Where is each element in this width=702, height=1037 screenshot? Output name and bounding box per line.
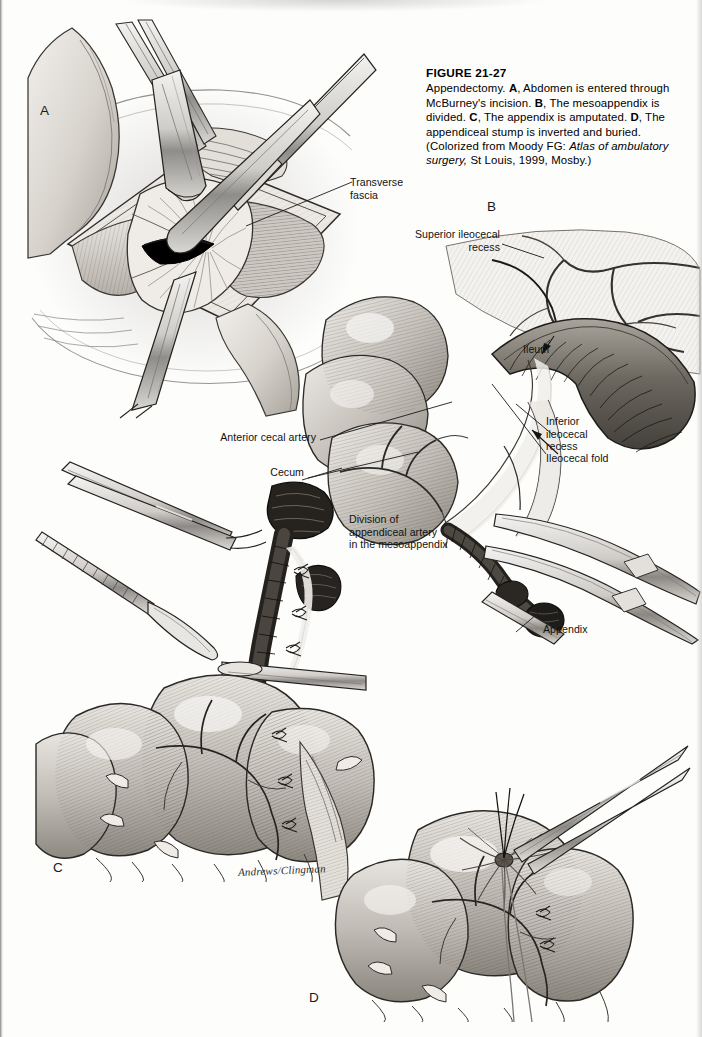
panel-letter-a: A — [40, 103, 49, 118]
panel-d-illustration — [300, 742, 690, 1022]
caption-part-comma-a: , — [517, 82, 520, 94]
panel-letter-d: D — [309, 990, 319, 1005]
label-cecum: Cecum — [214, 466, 304, 479]
cecum-mass-d — [335, 811, 633, 1006]
label-division-of-appendiceal-artery: Division of appendiceal artery in the me… — [349, 513, 448, 551]
caption-part-letter-b: B — [535, 97, 543, 109]
caption-part-letter-a: A — [509, 82, 517, 94]
panel-letter-c: C — [53, 860, 63, 875]
label-inferior-ileocecal-recess: Inferior ileocecal recess — [546, 415, 588, 453]
caption-source-prefix: (Colorized from Moody FG: — [426, 140, 566, 152]
label-appendix: Appendix — [543, 623, 588, 636]
caption-part-comma-b: , — [543, 97, 546, 109]
caption-part-letter-d: D — [630, 111, 638, 123]
caption-part-comma-c: , — [478, 111, 481, 123]
caption-part-comma-d: , — [639, 111, 642, 123]
caption-part-letter-c: C — [469, 111, 477, 123]
scalpel-c — [36, 532, 218, 660]
caption-source-suffix: St Louis, 1999, Mosby.) — [470, 154, 591, 166]
label-superior-ileocecal-recess: Superior ileocecal recess — [378, 228, 500, 253]
figure-page: Transverse fascia Superior ileocecal rec… — [0, 0, 702, 1037]
page-scan-smudge — [120, 0, 550, 12]
panel-letter-b: B — [487, 199, 496, 214]
label-anterior-cecal-artery: Anterior cecal artery — [190, 431, 316, 444]
label-ileocecal-fold: Ileocecal fold — [546, 452, 609, 465]
figure-caption: FIGURE 21-27Appendectomy. A, Abdomen is … — [426, 66, 678, 168]
label-transverse-fascia: Transverse fascia — [350, 176, 403, 201]
caption-part-text-c: The appendix is amputated. — [484, 111, 627, 123]
figure-number: FIGURE 21-27 — [426, 66, 678, 80]
caption-lead: Appendectomy. — [426, 82, 506, 94]
label-ileum: Ileum — [523, 343, 549, 356]
